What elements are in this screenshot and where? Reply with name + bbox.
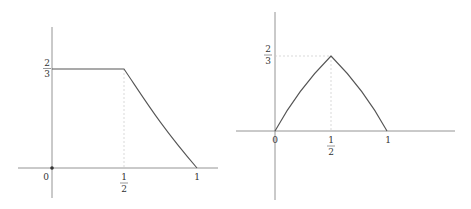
origin-dot <box>50 166 54 170</box>
left-tick-half-den: 2 <box>121 184 127 194</box>
left-tick-1: 1 <box>194 172 200 182</box>
figure: 0 1 1 2 2 3 0 1 1 2 2 3 <box>0 0 471 209</box>
right-tick-half-den: 2 <box>328 147 334 157</box>
left-ytick-num: 2 <box>44 58 50 68</box>
right-tick-0: 0 <box>272 135 278 145</box>
right-tick-half-num: 1 <box>328 135 334 145</box>
left-ytick-den: 3 <box>44 69 50 79</box>
left-tick-half-num: 1 <box>121 172 127 182</box>
left-plot: 0 1 1 2 2 3 <box>18 27 218 198</box>
left-tick-0: 0 <box>43 172 49 182</box>
right-tick-1: 1 <box>385 135 391 145</box>
right-ytick-num: 2 <box>265 44 271 54</box>
right-ytick-den: 3 <box>265 56 271 66</box>
right-plot: 0 1 1 2 2 3 <box>236 12 455 200</box>
left-curve <box>52 69 197 168</box>
